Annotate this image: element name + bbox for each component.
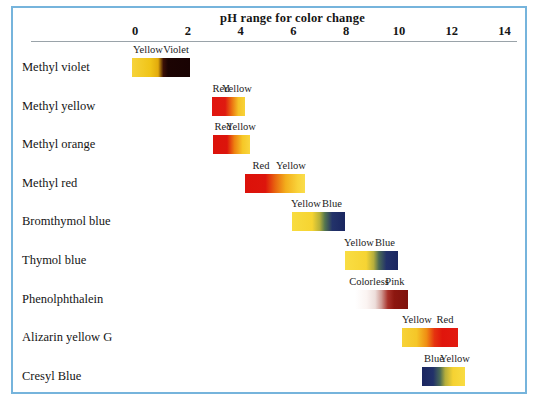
base-color-label: Red xyxy=(437,314,454,326)
indicator-name: Methyl orange xyxy=(22,137,95,151)
base-color-label: Blue xyxy=(375,237,395,249)
ph-range-bar xyxy=(132,58,190,77)
indicator-name: Methyl violet xyxy=(22,60,90,74)
ph-range-bar xyxy=(245,174,305,193)
ph-range-bar xyxy=(292,212,345,231)
indicator-row: Thymol blueYellowBlue xyxy=(0,240,543,278)
indicator-row: PhenolphthaleinColorlessPink xyxy=(0,279,543,317)
ph-range-bar-wrapper: BlueYellow xyxy=(422,367,465,386)
acid-color-label: Yellow xyxy=(402,314,432,326)
acid-color-label: Yellow xyxy=(133,44,163,56)
base-color-label: Violet xyxy=(163,44,189,56)
indicator-row: Cresyl BlueBlueYellow xyxy=(0,356,543,394)
base-color-label: Blue xyxy=(322,198,342,210)
ph-range-bar xyxy=(213,135,250,154)
indicator-row: Methyl yellowRedYellow xyxy=(0,86,543,124)
indicator-name: Alizarin yellow G xyxy=(22,330,112,344)
ph-range-bar-wrapper: ColorlessPink xyxy=(355,290,408,309)
ph-range-bar-wrapper: RedYellow xyxy=(213,135,250,154)
ph-range-bar-wrapper: YellowBlue xyxy=(292,212,345,231)
base-color-label: Yellow xyxy=(440,353,470,365)
ph-range-bar xyxy=(212,97,245,116)
indicator-name: Cresyl Blue xyxy=(22,369,81,383)
indicator-name: Phenolphthalein xyxy=(22,292,103,306)
indicator-row: Methyl orangeRedYellow xyxy=(0,124,543,162)
ph-range-bar-wrapper: YellowRed xyxy=(402,328,458,347)
ph-range-bar xyxy=(402,328,458,347)
base-color-label: Yellow xyxy=(276,160,306,172)
acid-color-label: Yellow xyxy=(344,237,374,249)
indicator-name: Thymol blue xyxy=(22,253,86,267)
base-color-label: Pink xyxy=(385,276,404,288)
acid-color-label: Colorless xyxy=(349,276,389,288)
indicator-row: Bromthymol blueYellowBlue xyxy=(0,201,543,239)
ph-indicator-chart: pH range for color change 02468101214 Me… xyxy=(0,0,543,408)
ph-range-bar-wrapper: RedYellow xyxy=(245,174,305,193)
indicator-row: Methyl violetYellowViolet xyxy=(0,47,543,85)
indicator-row: Alizarin yellow GYellowRed xyxy=(0,317,543,355)
base-color-label: Yellow xyxy=(222,83,252,95)
ph-range-bar-wrapper: YellowViolet xyxy=(132,58,190,77)
ph-range-bar xyxy=(422,367,465,386)
acid-color-label: Red xyxy=(253,160,270,172)
indicator-name: Methyl red xyxy=(22,176,77,190)
ph-range-bar-wrapper: YellowBlue xyxy=(345,251,398,270)
indicator-rows: Methyl violetYellowVioletMethyl yellowRe… xyxy=(0,0,543,408)
acid-color-label: Yellow xyxy=(291,198,321,210)
indicator-name: Methyl yellow xyxy=(22,99,95,113)
base-color-label: Yellow xyxy=(226,121,256,133)
ph-range-bar xyxy=(355,290,408,309)
ph-range-bar-wrapper: RedYellow xyxy=(212,97,245,116)
ph-range-bar xyxy=(345,251,398,270)
indicator-row: Methyl redRedYellow xyxy=(0,163,543,201)
indicator-name: Bromthymol blue xyxy=(22,214,111,228)
